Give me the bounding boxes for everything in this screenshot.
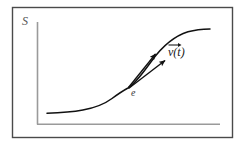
figure-container: S e v(t) bbox=[0, 0, 245, 145]
outer-border bbox=[13, 8, 233, 138]
sigmoid-curve bbox=[47, 29, 210, 113]
vector-v-letter: v bbox=[168, 45, 173, 59]
vector-argument: (t) bbox=[173, 45, 184, 59]
vector-v-glyph: v bbox=[168, 46, 173, 58]
velocity-vector-label: v(t) bbox=[168, 46, 185, 58]
y-axis-label: S bbox=[22, 15, 28, 27]
diagram-canvas bbox=[0, 0, 245, 145]
inflection-point-label: e bbox=[131, 88, 135, 98]
